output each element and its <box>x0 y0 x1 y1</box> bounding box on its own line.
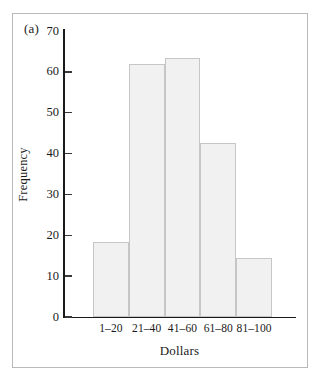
y-tick-label: 30 <box>33 188 59 201</box>
y-tick-label: 50 <box>33 106 59 119</box>
x-axis-title: Dollars <box>63 344 296 358</box>
histogram-bar <box>93 242 129 317</box>
y-tick-label-text: 0 <box>33 311 59 324</box>
histogram-figure: (a) 010203040506070 Frequency 1–2021–404… <box>0 0 322 388</box>
y-tick-mark <box>65 235 72 236</box>
y-tick-mark <box>65 275 72 276</box>
y-tick-label: 60 <box>33 65 59 78</box>
y-tick-label: 40 <box>33 147 59 160</box>
histogram-bar <box>236 258 272 317</box>
y-tick-label-text: 20 <box>33 229 59 242</box>
y-tick-label-text: 30 <box>33 188 59 201</box>
y-tick-label-text: 40 <box>33 147 59 160</box>
y-tick-label-text: 10 <box>33 270 59 283</box>
y-tick-mark <box>65 112 72 113</box>
y-tick-label-text: 60 <box>33 65 59 78</box>
y-axis-title: Frequency <box>17 130 30 220</box>
y-tick-mark <box>65 71 72 72</box>
histogram-bar <box>165 58 201 317</box>
y-tick-label-text: 50 <box>33 106 59 119</box>
plot-area: 010203040506070 Frequency 1–2021–4041–60… <box>0 0 322 388</box>
y-tick-label-text: 70 <box>33 25 59 38</box>
x-tick-label: 81–100 <box>230 322 278 335</box>
y-tick-label: 70 <box>33 25 59 38</box>
y-tick-mark <box>65 153 72 154</box>
y-tick-mark <box>65 194 72 195</box>
y-tick-label: 20 <box>33 229 59 242</box>
histogram-bar <box>129 64 165 317</box>
y-tick-mark <box>65 316 72 317</box>
histogram-bar <box>200 143 236 317</box>
y-tick-label: 10 <box>33 270 59 283</box>
y-tick-label: 0 <box>33 311 59 324</box>
